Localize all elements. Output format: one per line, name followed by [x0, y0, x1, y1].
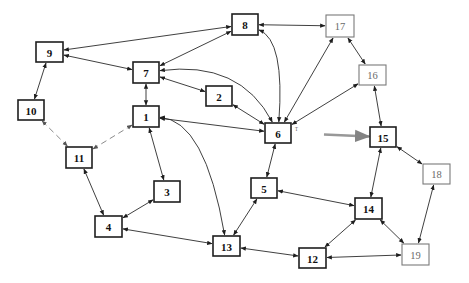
- node-14: 14: [355, 198, 382, 219]
- edge-18-to-19: [419, 185, 434, 243]
- node-15: 15: [370, 127, 396, 147]
- edge-14-to-19: [380, 220, 404, 243]
- node-13-label: 13: [221, 241, 233, 253]
- node-19-label: 19: [410, 250, 421, 261]
- edge-12-to-14: [325, 220, 356, 247]
- nodes-layer: 12345678910111213141516171819: [18, 14, 450, 268]
- node-7: 7: [133, 62, 159, 83]
- annotation-mark: ᵀ: [295, 126, 298, 135]
- node-3: 3: [154, 181, 180, 202]
- node-9: 9: [36, 42, 63, 62]
- node-12-label: 12: [307, 253, 319, 265]
- node-16: 16: [359, 65, 386, 85]
- node-1-label: 1: [143, 111, 149, 123]
- node-12: 12: [299, 248, 326, 268]
- node-18-label: 18: [431, 169, 442, 180]
- node-2: 2: [206, 86, 232, 106]
- edge-1-to-13: [160, 117, 225, 235]
- node-17-label: 17: [335, 21, 346, 32]
- edge-11-to-4: [84, 169, 104, 215]
- edge-8-to-6: [259, 30, 280, 122]
- node-6-label: 6: [275, 128, 281, 140]
- node-18: 18: [423, 164, 450, 184]
- node-3-label: 3: [164, 186, 170, 198]
- edge-3-to-4: [123, 200, 153, 218]
- edge-6-to-16: [292, 84, 358, 125]
- node-4-label: 4: [106, 221, 112, 233]
- edge-1-to-11: [93, 125, 132, 149]
- edge-6-to-17: [284, 38, 333, 122]
- node-16-label: 16: [367, 70, 378, 81]
- edge-9-to-8: [64, 26, 231, 49]
- edge-16-to-15: [374, 86, 381, 126]
- node-8-label: 8: [242, 19, 248, 31]
- node-9-label: 9: [47, 47, 53, 59]
- node-15-label: 15: [378, 132, 390, 144]
- node-13: 13: [213, 236, 240, 256]
- edge-12-to-19: [327, 255, 401, 258]
- edge-8-to-17: [259, 25, 325, 26]
- edge-4-to-13: [123, 229, 212, 244]
- edge-6-to-5: [267, 144, 275, 177]
- node-10-label: 10: [26, 105, 38, 117]
- node-5: 5: [251, 178, 277, 198]
- edge-2-to-6: [233, 105, 264, 124]
- edge-17-to-16: [348, 38, 365, 64]
- node-2-label: 2: [216, 91, 222, 103]
- node-17: 17: [326, 15, 354, 37]
- network-diagram: 12345678910111213141516171819 ᵀ: [0, 0, 469, 283]
- node-1: 1: [133, 106, 159, 127]
- node-5-label: 5: [261, 183, 267, 195]
- annotations-layer: ᵀ: [295, 126, 298, 135]
- edge-15-to-14: [371, 148, 381, 197]
- node-14-label: 14: [363, 203, 375, 215]
- node-11: 11: [66, 147, 92, 168]
- node-8: 8: [232, 14, 258, 35]
- edge-9-to-10: [35, 63, 46, 99]
- edge-10-to-11: [42, 121, 67, 146]
- edge-6-to-15: [324, 135, 369, 137]
- edge-7-to-8: [160, 31, 231, 65]
- edge-1-to-6: [160, 118, 264, 131]
- node-6: 6: [265, 123, 291, 143]
- edge-15-to-18: [397, 147, 422, 164]
- edge-7-to-2: [160, 77, 205, 91]
- node-11-label: 11: [74, 152, 84, 164]
- edge-9-to-7: [64, 55, 132, 69]
- edge-5-to-13: [234, 199, 257, 235]
- edge-13-to-12: [241, 248, 298, 256]
- edge-5-to-14: [278, 191, 354, 206]
- node-10: 10: [18, 100, 44, 120]
- edge-1-to-3: [149, 128, 164, 180]
- node-19: 19: [402, 244, 429, 265]
- node-4: 4: [95, 216, 122, 237]
- node-7-label: 7: [143, 67, 149, 79]
